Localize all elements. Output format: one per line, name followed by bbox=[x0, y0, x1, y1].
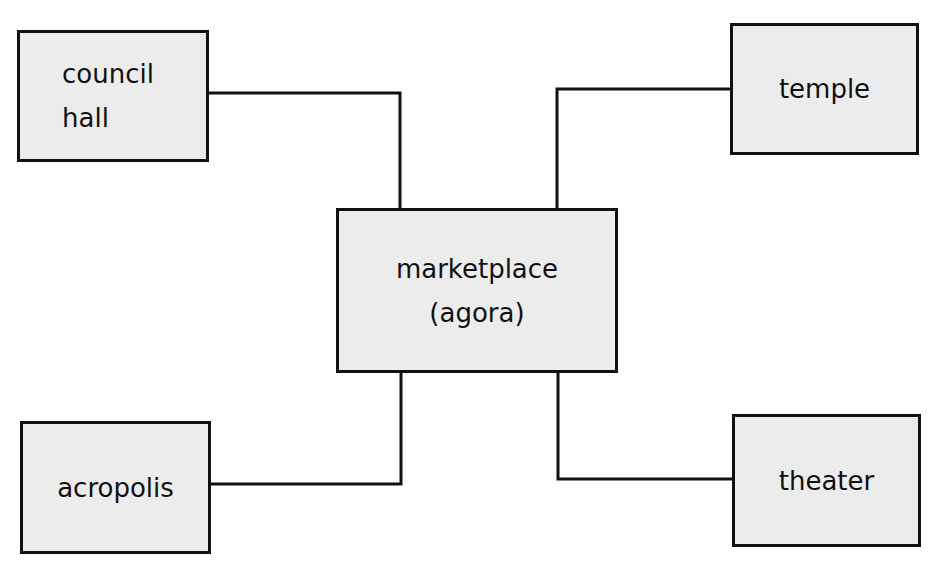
node-label: theater bbox=[779, 459, 874, 503]
node-council-hall: council hall bbox=[17, 30, 209, 162]
edge-agora-temple bbox=[557, 89, 731, 210]
edge-agora-council-hall bbox=[207, 93, 400, 210]
node-marketplace-agora: marketplace (agora) bbox=[336, 208, 618, 373]
edge-agora-acropolis bbox=[210, 371, 401, 484]
node-label: temple bbox=[779, 67, 870, 111]
node-label: marketplace bbox=[396, 247, 558, 291]
node-label: (agora) bbox=[429, 291, 524, 335]
node-theater: theater bbox=[732, 414, 921, 547]
node-acropolis: acropolis bbox=[20, 421, 211, 554]
node-label: hall bbox=[62, 96, 109, 140]
node-label: council bbox=[62, 52, 154, 96]
edge-agora-theater bbox=[558, 371, 733, 479]
agora-diagram: council hall temple marketplace (agora) … bbox=[0, 0, 931, 568]
node-label: acropolis bbox=[57, 466, 174, 510]
node-temple: temple bbox=[730, 23, 919, 155]
